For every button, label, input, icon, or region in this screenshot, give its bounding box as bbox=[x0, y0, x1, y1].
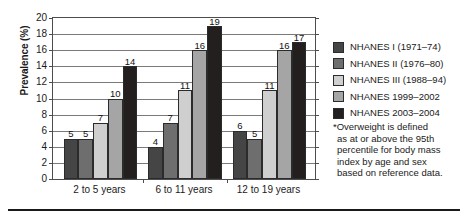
footnote-line: *Overweight is defined bbox=[333, 121, 465, 133]
bottom-divider bbox=[8, 209, 460, 211]
legend-item: NHANES 2003–2004 bbox=[333, 106, 465, 120]
bar-group: 5571014 bbox=[64, 18, 138, 179]
legend-item: NHANES 1999–2002 bbox=[333, 90, 465, 104]
x-axis-category-label: 2 to 5 years bbox=[63, 184, 137, 195]
bar-value-label: 16 bbox=[279, 41, 290, 51]
bar-chart-figure: Prevalence (%) 2018161412108642055710144… bbox=[0, 0, 468, 217]
footnote-line: percentile for body mass bbox=[333, 144, 465, 156]
legend-color-swatch bbox=[333, 58, 344, 69]
bar: 7 bbox=[93, 123, 108, 179]
bar: 14 bbox=[123, 66, 138, 179]
bar-value-label: 14 bbox=[125, 57, 136, 67]
legend-label: NHANES I (1971–74) bbox=[350, 42, 441, 52]
bar-group-bars: 5571014 bbox=[64, 18, 138, 179]
chart-footnote: *Overweight is definedas at or above the… bbox=[333, 121, 465, 179]
legend-color-swatch bbox=[333, 75, 344, 86]
legend-item: NHANES III (1988–94) bbox=[333, 73, 465, 87]
y-axis-tick-mark bbox=[315, 18, 319, 19]
bar-value-label: 5 bbox=[83, 129, 88, 139]
y-axis-tick-label: 2 bbox=[41, 158, 47, 168]
bar-group: 65111617 bbox=[233, 18, 307, 179]
y-axis-tick-mark bbox=[49, 82, 53, 83]
bar-value-label: 11 bbox=[265, 81, 275, 91]
y-axis-tick-mark bbox=[315, 99, 319, 100]
bar-value-label: 5 bbox=[68, 129, 73, 139]
legend-color-swatch bbox=[333, 42, 344, 53]
y-axis-tick-mark bbox=[315, 66, 319, 67]
bar: 17 bbox=[292, 42, 307, 179]
y-axis-tick-mark bbox=[49, 131, 53, 132]
bar: 5 bbox=[78, 139, 93, 179]
y-axis-tick-mark bbox=[315, 131, 319, 132]
bar-value-label: 10 bbox=[110, 89, 121, 99]
bar: 19 bbox=[207, 26, 222, 179]
y-axis-tick-mark bbox=[49, 147, 53, 148]
bar: 16 bbox=[277, 50, 292, 179]
bar: 11 bbox=[178, 90, 193, 179]
legend-label: NHANES 1999–2002 bbox=[350, 92, 440, 102]
bar-value-label: 16 bbox=[194, 41, 205, 51]
bar-value-label: 7 bbox=[98, 113, 103, 123]
y-axis-tick-mark bbox=[315, 179, 319, 180]
bar-value-label: 7 bbox=[168, 113, 173, 123]
legend-item: NHANES I (1971–74) bbox=[333, 40, 465, 54]
bar-value-label: 6 bbox=[237, 121, 242, 131]
y-axis-tick-mark bbox=[49, 163, 53, 164]
x-axis-tick-mark bbox=[143, 179, 144, 183]
y-axis-tick-label: 4 bbox=[41, 142, 47, 152]
y-axis-tick-mark bbox=[315, 50, 319, 51]
bar-group: 47111619 bbox=[148, 18, 222, 179]
x-axis-category-label: 6 to 11 years bbox=[147, 184, 221, 195]
y-axis-title: Prevalence (%) bbox=[19, 0, 30, 131]
y-axis-tick-label: 6 bbox=[41, 126, 47, 136]
bar: 4 bbox=[148, 147, 163, 179]
bar: 10 bbox=[108, 99, 123, 180]
footnote-line: index by age and sex bbox=[333, 156, 465, 168]
plot-area: 2018161412108642055710144711161965111617 bbox=[52, 17, 316, 180]
bar-value-label: 17 bbox=[294, 33, 305, 43]
y-axis-tick-mark bbox=[315, 147, 319, 148]
bar: 5 bbox=[247, 139, 262, 179]
y-axis-tick-mark bbox=[49, 66, 53, 67]
y-axis-tick-mark bbox=[49, 99, 53, 100]
y-axis-tick-mark bbox=[315, 115, 319, 116]
x-axis-category-label: 12 to 19 years bbox=[232, 184, 306, 195]
legend-label: NHANES II (1976–80) bbox=[350, 59, 443, 69]
y-axis-tick-mark bbox=[315, 163, 319, 164]
y-axis-tick-label: 0 bbox=[41, 174, 47, 184]
y-axis-tick-label: 10 bbox=[36, 94, 47, 104]
y-axis-tick-mark bbox=[315, 34, 319, 35]
bar: 7 bbox=[163, 123, 178, 179]
x-axis-tick-mark bbox=[227, 179, 228, 183]
bar-value-label: 5 bbox=[252, 129, 257, 139]
bar: 6 bbox=[233, 131, 248, 179]
y-axis-tick-label: 14 bbox=[36, 61, 47, 71]
bar-value-label: 19 bbox=[209, 17, 220, 27]
y-axis-tick-label: 20 bbox=[36, 13, 47, 23]
y-axis-tick-mark bbox=[49, 179, 53, 180]
y-axis-tick-mark bbox=[49, 50, 53, 51]
legend-item: NHANES II (1976–80) bbox=[333, 57, 465, 71]
bar-group-bars: 47111619 bbox=[148, 18, 222, 179]
bar-value-label: 11 bbox=[180, 81, 190, 91]
y-axis-tick-label: 12 bbox=[36, 77, 47, 87]
legend-color-swatch bbox=[333, 108, 344, 119]
y-axis-tick-mark bbox=[49, 115, 53, 116]
legend-label: NHANES III (1988–94) bbox=[350, 75, 446, 85]
legend-label: NHANES 2003–2004 bbox=[350, 108, 440, 118]
y-axis-tick-label: 18 bbox=[36, 29, 47, 39]
y-axis-tick-label: 16 bbox=[36, 45, 47, 55]
footnote-line: based on reference data. bbox=[333, 167, 465, 179]
bar-value-label: 4 bbox=[153, 137, 158, 147]
chart-legend: NHANES I (1971–74)NHANES II (1976–80)NHA… bbox=[333, 40, 465, 123]
y-axis-tick-mark bbox=[49, 34, 53, 35]
y-axis-tick-mark bbox=[315, 82, 319, 83]
footnote-line: as at or above the 95th bbox=[333, 133, 465, 145]
y-axis-tick-label: 8 bbox=[41, 110, 47, 120]
legend-color-swatch bbox=[333, 91, 344, 102]
bar: 11 bbox=[262, 90, 277, 179]
bar: 16 bbox=[192, 50, 207, 179]
y-axis-tick-mark bbox=[49, 18, 53, 19]
bar: 5 bbox=[64, 139, 79, 179]
bar-group-bars: 65111617 bbox=[233, 18, 307, 179]
